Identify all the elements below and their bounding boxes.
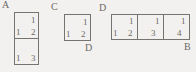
figure-d-cell-2-top-right-number: 1	[181, 17, 186, 26]
figure-d-cell-0-bottom-right-number: 2	[128, 29, 133, 38]
figure-c-corner-label-d: D	[85, 43, 92, 53]
figure-c-cell-0-bottom-left-number: 1	[66, 30, 71, 39]
figure-a-cell-0-bottom-right-number: 2	[31, 28, 36, 37]
figure-d-cell-0-bottom-left-number: 1	[113, 29, 118, 38]
figure-a-cell-1-bottom-left-number: 1	[16, 54, 21, 63]
diagram-canvas: A 1 1 2 1 3 C D 1 1 2 D B 1 1 2 1 3 1 4	[0, 0, 196, 72]
figure-d-cell-0-top-right-number: 1	[129, 17, 134, 26]
figure-c-corner-label-c: C	[51, 2, 58, 12]
figure-c-cell-0-top-right-number: 1	[83, 18, 88, 27]
figure-d-corner-label-d: D	[99, 3, 106, 13]
figure-c-cell-0-bottom-right-number: 2	[81, 30, 86, 39]
figure-d-cell-1-top-right-number: 1	[155, 17, 160, 26]
figure-a-cell-0-bottom-left-number: 1	[16, 28, 21, 37]
figure-a-corner-label-a: A	[2, 0, 9, 10]
figure-d-corner-label-b: B	[184, 42, 191, 52]
figure-a-cell-1-bottom-right-number: 3	[31, 54, 36, 63]
figure-d-cell-1-bottom-right-number: 3	[151, 29, 156, 38]
figure-a-cell-0-top-right-number: 1	[31, 16, 36, 25]
figure-d-cell-2-bottom-right-number: 4	[177, 29, 182, 38]
